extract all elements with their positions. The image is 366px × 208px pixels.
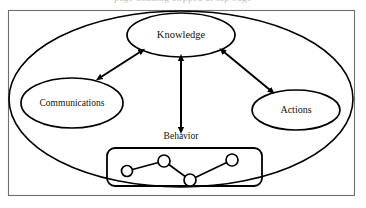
diagram-canvas: page heading clipped at top edge Knowled…	[0, 0, 366, 208]
network-node-n3[interactable]	[184, 174, 196, 186]
network-node-n4[interactable]	[226, 154, 238, 166]
node-knowledge-label: Knowledge	[157, 29, 206, 40]
node-behavior-label: Behavior	[164, 131, 200, 141]
node-communications-label: Communications	[40, 98, 105, 108]
arrow-knowledge-actions	[224, 52, 270, 90]
knowledge-behavior-diagram: Knowledge Communications Actions Behavio…	[0, 0, 366, 208]
network-node-n2[interactable]	[158, 155, 170, 167]
network-node-n1[interactable]	[122, 166, 133, 177]
node-actions-label: Actions	[280, 104, 311, 115]
arrow-knowledge-communications	[101, 52, 140, 77]
network-edge-n3-n4	[190, 160, 232, 180]
